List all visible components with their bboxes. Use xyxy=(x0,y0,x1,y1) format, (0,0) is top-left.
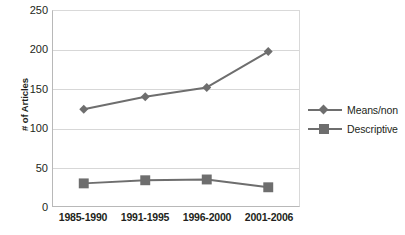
diamond-marker-icon xyxy=(202,83,211,92)
square-marker-icon xyxy=(140,175,150,185)
x-tick-label: 1991-1995 xyxy=(110,211,180,223)
diamond-marker-icon xyxy=(141,92,150,101)
diamond-marker-icon xyxy=(308,103,342,117)
y-tick-label: 50 xyxy=(18,163,48,174)
square-marker-icon xyxy=(308,122,342,136)
diamond-marker-icon xyxy=(79,105,88,114)
square-marker-icon xyxy=(263,182,273,192)
legend-item-descriptive[interactable]: Descriptive xyxy=(308,119,405,138)
x-tick-label: 1996-2000 xyxy=(172,211,242,223)
diamond-marker-icon xyxy=(264,47,273,56)
y-tick-label: 250 xyxy=(18,5,48,16)
legend-label: Means/non xyxy=(342,104,398,116)
square-marker-icon xyxy=(202,175,212,185)
series-line-0 xyxy=(84,52,269,110)
legend-item-means-non[interactable]: Means/non xyxy=(308,100,405,119)
plot-area xyxy=(52,10,300,207)
y-tick-label: 0 xyxy=(18,202,48,213)
x-axis-tick-labels: 1985-1990 1991-1995 1996-2000 2001-2006 xyxy=(52,211,300,231)
legend-label: Descriptive xyxy=(342,123,398,135)
series-layer xyxy=(53,11,299,206)
y-tick-label: 200 xyxy=(18,44,48,55)
x-tick-label: 2001-2006 xyxy=(234,211,304,223)
series-line-1 xyxy=(84,179,269,187)
line-chart: # of Articles 250 200 150 100 50 0 1985-… xyxy=(0,0,405,235)
y-tick-label: 100 xyxy=(18,123,48,134)
y-tick-label: 150 xyxy=(18,84,48,95)
square-marker-icon xyxy=(79,178,89,188)
y-axis-tick-labels: 250 200 150 100 50 0 xyxy=(14,0,48,235)
x-tick-label: 1985-1990 xyxy=(48,211,118,223)
chart-legend: Means/non Descriptive xyxy=(308,100,405,138)
